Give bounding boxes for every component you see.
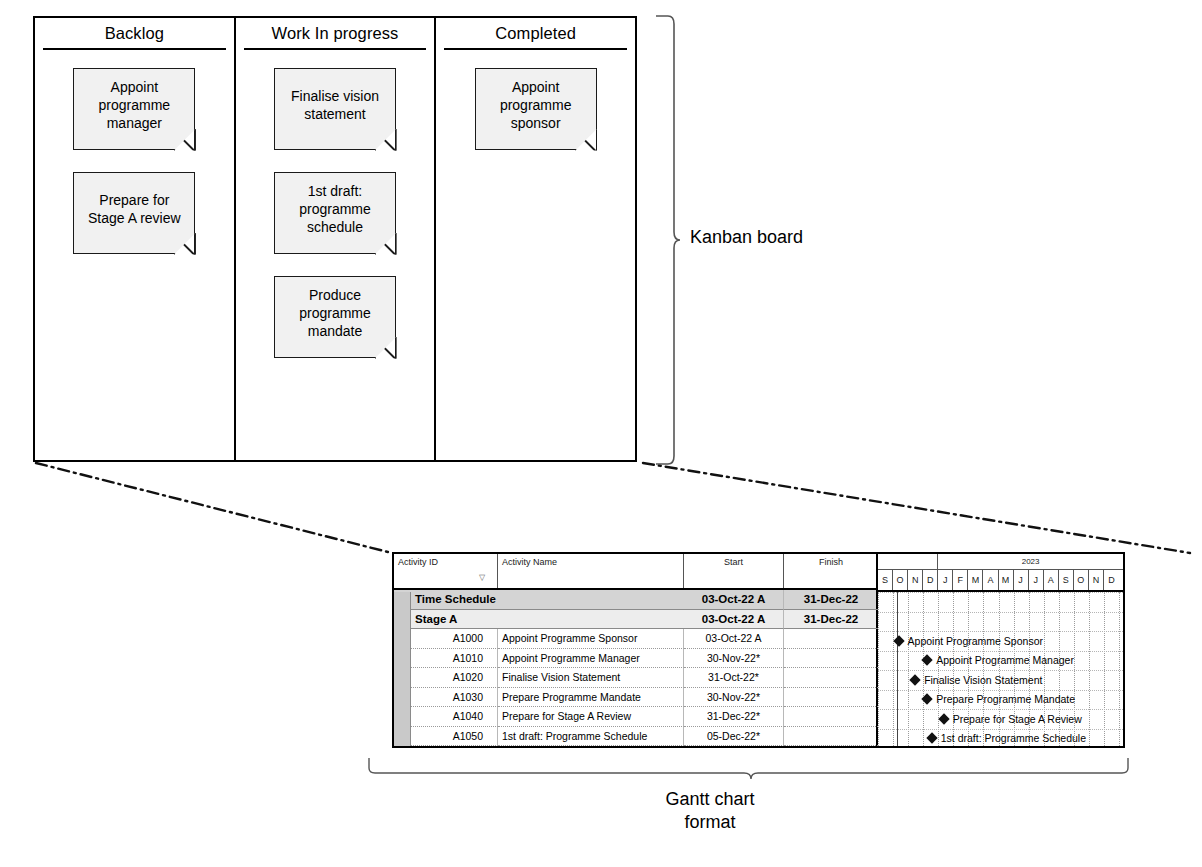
milestone-label: Appoint Programme Manager [936,654,1074,666]
column-header-start[interactable]: Start [684,554,784,588]
gantt-row[interactable]: A1000Appoint Programme Sponsor03-Oct-22 … [394,629,876,649]
gantt-cell-activity-name [498,610,684,630]
collapse-expand-icon[interactable] [398,594,409,605]
column-header-activity-name[interactable]: Activity Name [498,554,684,588]
gantt-cell-activity-name: Appoint Programme Manager [498,649,684,669]
timeline-month-cell: J [1029,570,1044,590]
milestone-label: Prepare Programme Mandate [936,693,1075,705]
gantt-row[interactable]: Time Schedule03-Oct-22 A31-Dec-22 [394,590,876,610]
gantt-cell-finish [784,727,878,747]
gantt-cell-start: 05-Dec-22* [684,727,784,747]
milestone-marker[interactable]: 1st draft: Programme Schedule [928,729,1086,747]
timeline-month-cell: N [1089,570,1104,590]
milestone-marker[interactable]: Prepare Programme Mandate [923,690,1075,710]
gantt-cell-activity-name: Finalise Vision Statement [498,668,684,688]
gantt-cell-activity-name: Appoint Programme Sponsor [498,629,684,649]
timeline-month-cell: M [968,570,983,590]
gantt-cell-activity-id: A1000 [394,629,498,649]
gantt-activity-id-text: A1020 [453,671,483,683]
milestone-label: Appoint Programme Sponsor [908,635,1043,647]
gantt-cell-activity-name: Prepare for Stage A Review [498,707,684,727]
gantt-row[interactable]: Stage A03-Oct-22 A31-Dec-22 [394,610,876,630]
timeline-year-label: 2023 [938,554,1123,569]
timeline-year-row: 2023 [878,554,1123,570]
gantt-activity-id-text: A1010 [453,652,483,664]
gantt-table-body: Time Schedule03-Oct-22 A31-Dec-22Stage A… [394,590,876,746]
gantt-summary-name-text: Stage A [415,613,457,625]
milestone-diamond-icon [938,713,949,724]
gantt-cell-activity-name: Prepare Programme Mandate [498,688,684,708]
gantt-cell-start: 03-Oct-22 A [684,590,784,610]
milestone-marker[interactable]: Prepare for Stage A Review [940,709,1082,729]
timeline-month-cell: J [1014,570,1029,590]
milestone-diamond-icon [922,655,933,666]
column-header-finish[interactable]: Finish [784,554,878,588]
gantt-cell-start: 31-Oct-22* [684,668,784,688]
milestone-marker[interactable]: Appoint Programme Sponsor [895,631,1043,651]
gantt-label-line2: format [600,811,820,834]
gantt-activity-id-text: A1000 [453,632,483,644]
gantt-cell-activity-id: A1030 [394,688,498,708]
milestone-marker[interactable]: Finalise Vision Statement [911,670,1042,690]
gantt-row[interactable]: A1010Appoint Programme Manager30-Nov-22* [394,649,876,669]
gantt-row[interactable]: A10501st draft: Programme Schedule05-Dec… [394,727,876,747]
timeline-month-cell: N [908,570,923,590]
gantt-activity-id-text: A1030 [453,691,483,703]
timeline-month-row: SONDJFMAMJJASOND [878,570,1123,592]
timeline-month-cell: M [999,570,1014,590]
timeline-month-cell: F [953,570,968,590]
gantt-cell-finish [784,668,878,688]
gantt-cell-finish: 31-Dec-22 [784,590,878,610]
milestone-diamond-icon [909,674,920,685]
gantt-cell-activity-id: A1010 [394,649,498,669]
gantt-cell-start: 03-Oct-22 A [684,610,784,630]
gantt-timeline: 2023 SONDJFMAMJJASOND Appoint Programme … [878,554,1123,746]
gantt-chart: Activity ID ▽ Activity Name Start Finish… [392,552,1125,748]
milestone-label: Finalise Vision Statement [924,674,1042,686]
gantt-cell-activity-id: Time Schedule [394,590,498,610]
timeline-month-cell: A [983,570,998,590]
milestone-label: 1st draft: Programme Schedule [941,732,1086,744]
gantt-activity-id-text: A1050 [453,730,483,742]
timeline-month-cell: O [893,570,908,590]
timeline-month-cell: D [923,570,938,590]
milestone-diamond-icon [926,733,937,744]
column-header-activity-id[interactable]: Activity ID ▽ [394,554,498,588]
gantt-cell-activity-name: 1st draft: Programme Schedule [498,727,684,747]
gantt-cell-finish [784,629,878,649]
gantt-cell-start: 03-Oct-22 A [684,629,784,649]
gantt-activity-id-text: A1040 [453,710,483,722]
milestone-diamond-icon [893,635,904,646]
column-header-label: Activity ID [398,557,438,567]
gantt-cell-start: 31-Dec-22* [684,707,784,727]
gantt-bracket [366,756,1136,786]
milestone-diamond-icon [922,694,933,705]
gantt-activity-table: Activity ID ▽ Activity Name Start Finish… [394,554,878,746]
milestone-label: Prepare for Stage A Review [953,713,1082,725]
gantt-cell-finish: 31-Dec-22 [784,610,878,630]
column-header-label: Finish [819,557,843,567]
gantt-row[interactable]: A1040Prepare for Stage A Review31-Dec-22… [394,707,876,727]
column-header-label: Start [724,557,743,567]
gantt-cell-activity-id: A1020 [394,668,498,688]
collapse-expand-icon[interactable] [398,613,409,624]
timeline-milestones: Appoint Programme SponsorAppoint Program… [878,592,1123,746]
gantt-summary-name-text: Time Schedule [415,593,496,605]
gantt-row[interactable]: A1020Finalise Vision Statement31-Oct-22* [394,668,876,688]
gantt-cell-activity-id: A1050 [394,727,498,747]
gantt-chart-label: Gantt chart format [600,788,820,835]
gantt-cell-start: 30-Nov-22* [684,688,784,708]
timeline-month-cell: O [1074,570,1089,590]
milestone-marker[interactable]: Appoint Programme Manager [923,651,1074,671]
gantt-cell-finish [784,649,878,669]
gantt-cell-start: 30-Nov-22* [684,649,784,669]
sort-filter-icon[interactable]: ▽ [479,573,485,582]
timeline-month-cell: S [1059,570,1074,590]
connector-line-left [36,463,392,553]
connector-line-right [643,463,1190,553]
timeline-month-cell: J [938,570,953,590]
gantt-label-line1: Gantt chart [600,788,820,811]
gantt-cell-finish [784,707,878,727]
timeline-month-cell: S [878,570,893,590]
gantt-row[interactable]: A1030Prepare Programme Mandate30-Nov-22* [394,688,876,708]
